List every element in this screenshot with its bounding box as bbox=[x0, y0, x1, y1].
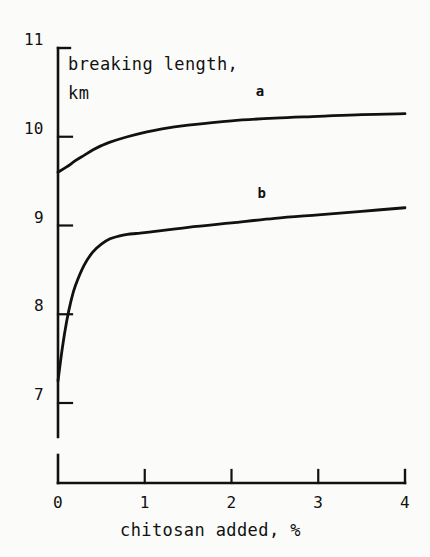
figure-canvas: breaking length, km chitosan added, % 78… bbox=[0, 0, 430, 557]
x-tick-label-2: 2 bbox=[227, 495, 237, 511]
y-tick-label-7: 7 bbox=[34, 387, 44, 403]
plot-area bbox=[0, 0, 430, 557]
curve-label-a: a bbox=[256, 84, 264, 98]
y-tick-label-11: 11 bbox=[24, 32, 43, 48]
y-tick-label-9: 9 bbox=[34, 210, 44, 226]
x-tick-label-0: 0 bbox=[53, 495, 63, 511]
x-axis-title: chitosan added, % bbox=[120, 522, 301, 539]
curve-a bbox=[58, 114, 405, 173]
x-tick-label-4: 4 bbox=[400, 495, 410, 511]
curve-b bbox=[58, 208, 405, 381]
x-tick-label-3: 3 bbox=[313, 495, 323, 511]
y-tick-label-8: 8 bbox=[34, 298, 44, 314]
x-tick-label-1: 1 bbox=[140, 495, 150, 511]
y-axis-title-line2: km bbox=[68, 85, 89, 102]
y-axis-title-line1: breaking length, bbox=[68, 56, 238, 73]
y-tick-label-10: 10 bbox=[24, 121, 43, 137]
curve-label-b: b bbox=[258, 186, 266, 200]
